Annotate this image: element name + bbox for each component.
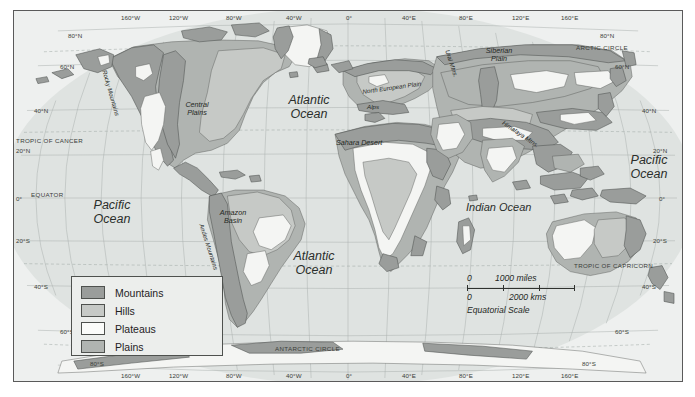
map-screenshot: Atlantic Ocean Atlantic Ocean Pacific Oc… — [0, 0, 695, 397]
europe — [313, 59, 441, 123]
scale-kms-labels: 0 2000 kms — [467, 292, 597, 303]
north-america — [36, 23, 333, 197]
legend-label-hills: Hills — [115, 305, 135, 317]
scale-miles-value: 1000 miles — [495, 273, 537, 283]
legend-label-plateaus: Plateaus — [115, 323, 156, 335]
scale-kms-zero: 0 — [467, 292, 472, 302]
legend-swatch-plateaus — [81, 322, 105, 335]
legend-item-plains: Plains — [81, 338, 222, 355]
scale-caption: Equatorial Scale — [467, 305, 597, 315]
map-legend: Mountains Hills Plateaus Plains — [71, 276, 223, 356]
world-map: Atlantic Ocean Atlantic Ocean Pacific Oc… — [13, 10, 683, 382]
scale-miles-labels: 0 1000 miles — [467, 273, 597, 284]
legend-label-mountains: Mountains — [115, 287, 163, 299]
legend-item-hills: Hills — [81, 302, 222, 319]
asia — [431, 45, 636, 182]
legend-swatch-plains — [81, 340, 105, 353]
legend-item-mountains: Mountains — [81, 284, 222, 301]
scale-bar-graphic — [467, 285, 575, 291]
scale-kms-value: 2000 kms — [509, 292, 546, 302]
map-scale-bar: 0 1000 miles 0 2000 kms Equatorial Scale — [467, 273, 597, 315]
legend-swatch-hills — [81, 304, 105, 317]
legend-item-plateaus: Plateaus — [81, 320, 222, 337]
scale-miles-zero: 0 — [467, 273, 472, 283]
legend-label-plains: Plains — [115, 341, 144, 353]
legend-swatch-mountains — [81, 286, 105, 299]
